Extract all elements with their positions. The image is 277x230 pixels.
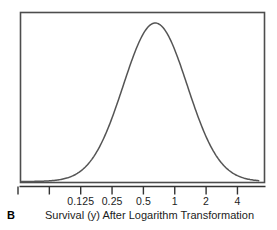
x-axis-tick-label: 1 (172, 195, 178, 207)
plot-frame (21, 13, 265, 183)
x-axis-ticks (18, 187, 237, 195)
x-axis-tick-label: 0.125 (67, 195, 94, 207)
x-axis-title: Survival (y) After Logarithm Transformat… (0, 208, 277, 222)
x-axis-tick-label: 2 (203, 195, 209, 207)
x-axis-tick-label: 4 (235, 195, 241, 207)
x-axis-tick-label: 0.25 (102, 195, 123, 207)
distribution-curve (21, 23, 258, 181)
x-axis-tick-label: 0.5 (136, 195, 151, 207)
figure-panel-b: 0.1250.250.5124 B Survival (y) After Log… (0, 0, 277, 230)
